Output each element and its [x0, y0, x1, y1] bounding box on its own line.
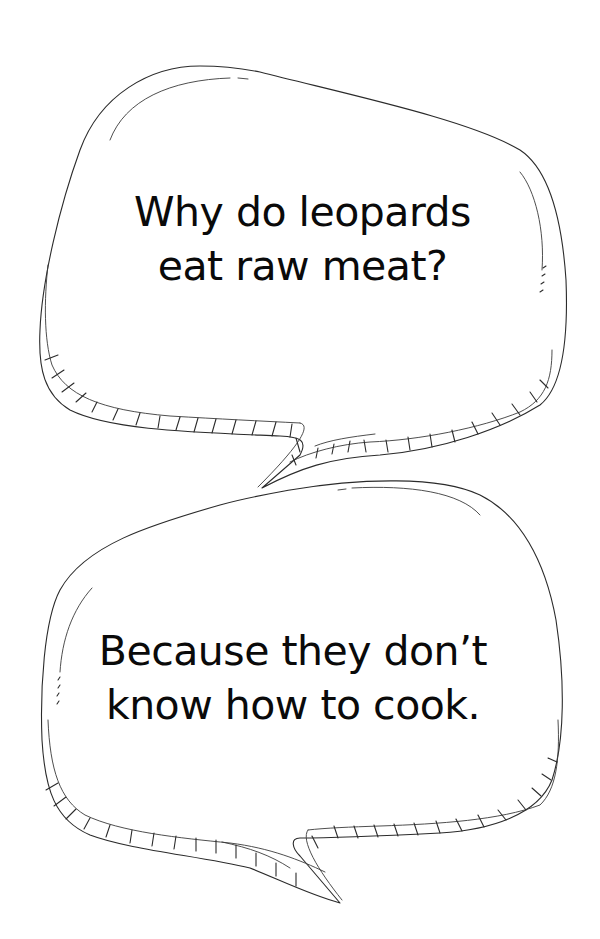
question-line-2: eat raw meat?: [100, 239, 505, 293]
joke-card: Why do leopards eat raw meat? Because th…: [0, 0, 600, 939]
speech-bubbles-illustration: [0, 0, 600, 939]
answer-line-2: know how to cook.: [68, 678, 518, 732]
answer-line-1: Because they don’t: [68, 624, 518, 678]
answer-text: Because they don’t know how to cook.: [68, 624, 518, 732]
question-line-1: Why do leopards: [100, 185, 505, 239]
question-text: Why do leopards eat raw meat?: [100, 185, 505, 293]
